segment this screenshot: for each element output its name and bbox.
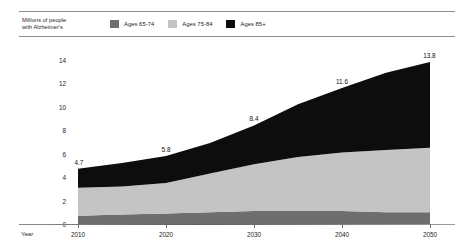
y-tick-label: 14 (59, 56, 66, 63)
x-tick-mark (78, 224, 79, 228)
legend-swatch-icon (168, 20, 177, 28)
data-point-label: 5.8 (162, 146, 171, 153)
legend-swatch-icon (226, 20, 235, 28)
x-tick-mark (342, 224, 343, 228)
y-axis: 02468101214 (0, 48, 74, 224)
plot-area (78, 48, 430, 224)
legend-label: Ages 75-84 (182, 21, 212, 27)
data-point-label: 11.6 (336, 78, 348, 85)
x-tick-label: 2010 (71, 231, 85, 238)
stacked-area-series (78, 48, 430, 224)
x-axis-line (19, 224, 455, 225)
x-tick-label: 2020 (159, 231, 173, 238)
x-axis-title: Year (21, 231, 33, 237)
y-tick-label: 10 (59, 103, 66, 110)
y-axis-title-line2: with Alzheimer's (22, 24, 96, 31)
y-tick-label: 8 (62, 127, 66, 134)
y-tick-label: 2 (62, 197, 66, 204)
y-axis-title: Millions of people with Alzheimer's (19, 17, 96, 31)
legend-label: Ages 65-74 (124, 21, 154, 27)
data-point-label: 4.7 (74, 159, 83, 166)
legend-label: Ages 85+ (240, 21, 265, 27)
x-tick-label: 2030 (247, 231, 261, 238)
x-tick-mark (430, 224, 431, 228)
x-tick-label: 2040 (335, 231, 349, 238)
legend-row: Millions of people with Alzheimer's Ages… (19, 12, 266, 36)
alzheimers-projection-chart: Millions of people with Alzheimer's Ages… (0, 0, 473, 250)
x-tick-mark (166, 224, 167, 228)
legend-item-ages-85-plus[interactable]: Ages 85+ (226, 20, 265, 28)
x-tick-label: 2050 (423, 231, 437, 238)
data-point-label: 8.4 (250, 115, 259, 122)
legend-swatch-icon (110, 20, 119, 28)
y-tick-label: 4 (62, 174, 66, 181)
y-tick-label: 12 (59, 80, 66, 87)
legend-item-ages-75-84[interactable]: Ages 75-84 (168, 20, 212, 28)
chart-legend: Millions of people with Alzheimer's Ages… (19, 11, 455, 37)
x-tick-mark (254, 224, 255, 228)
y-tick-label: 6 (62, 150, 66, 157)
y-axis-title-line1: Millions of people (22, 17, 96, 24)
legend-item-ages-65-74[interactable]: Ages 65-74 (110, 20, 154, 28)
data-point-label: 13.8 (423, 52, 435, 59)
